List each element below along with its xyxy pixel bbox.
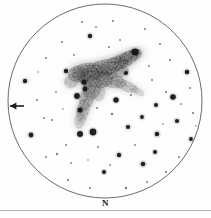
- figure-divider-rule: [0, 210, 211, 211]
- sketch-canvas: [0, 0, 211, 218]
- compass-label-north: N: [0, 198, 211, 208]
- eyepiece-sketch-figure: N: [0, 0, 211, 218]
- figure-background: [0, 0, 211, 218]
